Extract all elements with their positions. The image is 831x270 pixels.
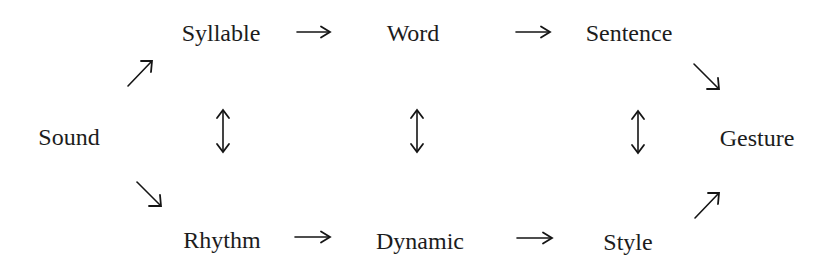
- arrow-rhythm-to-dynamic: [295, 232, 330, 243]
- arrow-word-to-sentence: [516, 27, 550, 38]
- arrow-word-dynamic-bidirectional: [411, 110, 423, 152]
- node-rhythm: Rhythm: [183, 226, 260, 254]
- arrow-style-to-gesture: [695, 193, 719, 218]
- arrow-dynamic-to-style: [517, 233, 552, 244]
- node-word: Word: [387, 19, 440, 47]
- node-sentence: Sentence: [586, 19, 673, 47]
- arrow-sentence-to-gesture: [694, 64, 719, 89]
- arrow-sound-to-rhythm: [137, 182, 161, 206]
- arrow-sound-to-syllable: [128, 61, 152, 86]
- arrow-sentence-style-bidirectional: [632, 111, 644, 153]
- node-dynamic: Dynamic: [376, 227, 464, 255]
- arrow-syllable-to-word: [297, 27, 330, 38]
- node-gesture: Gesture: [720, 124, 795, 152]
- node-style: Style: [603, 228, 652, 256]
- node-sound: Sound: [38, 123, 99, 151]
- node-syllable: Syllable: [182, 19, 261, 47]
- sound-to-gesture-diagram: Sound Syllable Word Sentence Gesture Rhy…: [0, 0, 831, 270]
- arrow-syllable-rhythm-bidirectional: [217, 110, 229, 152]
